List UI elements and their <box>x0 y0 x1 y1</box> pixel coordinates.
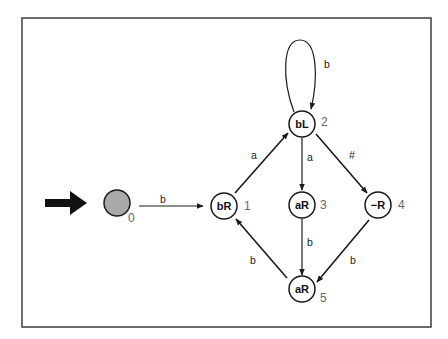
state-label: bR <box>217 200 232 212</box>
edge-5-to-1: b <box>236 219 287 278</box>
edge-1-to-2: a <box>235 133 288 193</box>
edge-3-to-5: b <box>302 219 313 275</box>
edge-label: b <box>307 236 313 248</box>
edge-2-to-4: # <box>316 134 367 193</box>
edge-label: # <box>349 149 355 161</box>
edge-label: a <box>251 149 257 161</box>
edge-label: a <box>307 151 313 163</box>
state-label: bL <box>295 118 309 130</box>
edge-label: b <box>324 58 330 70</box>
state-4: −R 4 <box>365 192 405 218</box>
state-label: aR <box>295 283 309 295</box>
edge-4-to-5: b <box>317 220 369 282</box>
state-label: aR <box>295 199 309 211</box>
state-0: 0 <box>104 190 135 225</box>
edge-0-to-1: b <box>139 193 203 206</box>
state-number: 0 <box>128 211 135 225</box>
diagram-frame <box>22 18 431 327</box>
edge-label: b <box>250 254 256 266</box>
start-arrow-icon <box>45 191 87 215</box>
state-number: 2 <box>321 115 328 129</box>
state-number: 5 <box>320 291 327 305</box>
edge-2-self-loop: b <box>286 40 330 112</box>
edge-2-to-3: a <box>302 138 313 190</box>
state-2: bL 2 <box>289 111 328 137</box>
state-3: aR 3 <box>289 192 327 218</box>
state-diagram: b a b a # b b b 0 bR 1 bL 2 <box>0 0 448 339</box>
state-number: 3 <box>320 198 327 212</box>
edge-label: b <box>350 254 356 266</box>
state-label: −R <box>371 199 385 211</box>
state-number: 4 <box>398 198 405 212</box>
edge-label: b <box>160 193 166 205</box>
state-number: 1 <box>244 199 251 213</box>
state-5: aR 5 <box>289 276 327 305</box>
state-1: bR 1 <box>211 193 251 219</box>
